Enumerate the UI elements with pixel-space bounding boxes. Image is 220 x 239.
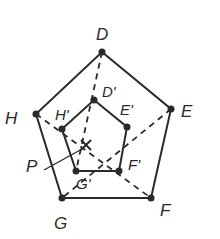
- vertex-f-prime: [116, 168, 123, 175]
- vertex-e: [168, 106, 175, 113]
- label-g: G: [54, 214, 67, 233]
- label-g-prime: G': [76, 175, 92, 192]
- label-e-prime: E': [120, 101, 134, 118]
- label-e: E: [181, 102, 193, 121]
- vertex-e-prime: [124, 124, 131, 131]
- vertex-h-prime: [59, 126, 66, 133]
- vertex-d-prime: [91, 97, 98, 104]
- vertex-d: [99, 49, 106, 56]
- label-h: H: [5, 109, 18, 128]
- vertex-h: [33, 111, 40, 118]
- label-d-prime: D': [102, 83, 117, 100]
- pentagon-dilation-diagram: D E F G H D' E' F' G' H' P: [0, 0, 220, 239]
- label-f: F: [160, 201, 172, 220]
- vertex-g: [59, 195, 66, 202]
- label-d: D: [96, 25, 108, 44]
- vertex-g-prime: [73, 168, 80, 175]
- label-h-prime: H': [55, 106, 70, 123]
- label-f-prime: F': [128, 156, 141, 173]
- vertex-f: [148, 195, 155, 202]
- vertex-dots: [33, 49, 175, 202]
- label-p: P: [26, 157, 38, 176]
- center-x-marker: [81, 140, 91, 150]
- inner-pentagon: [62, 100, 127, 171]
